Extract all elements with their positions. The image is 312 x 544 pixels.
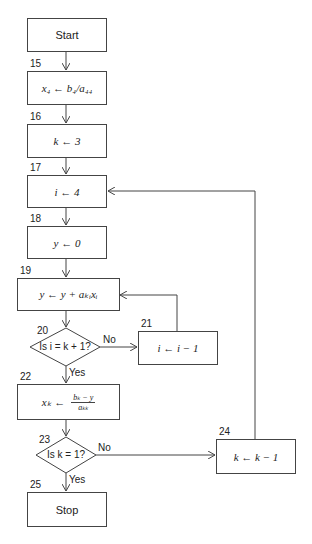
step-15-number: 15 <box>30 58 41 69</box>
step-15-text: x₄ ← b₄/a₄₄ <box>42 82 93 94</box>
step-18-number: 18 <box>30 213 41 224</box>
step-17-number: 17 <box>30 162 41 173</box>
step-24-number: 24 <box>219 426 230 437</box>
step-16-box: k ← 3 <box>27 124 107 158</box>
step-15-box: x₄ ← b₄/a₄₄ <box>27 71 107 105</box>
decision-23-no-label: No <box>98 442 111 453</box>
step-17-text: i ← 4 <box>54 186 79 198</box>
step-24-text: k ← k − 1 <box>234 451 279 463</box>
decision-20-text: Is i = k + 1? <box>30 341 100 352</box>
decision-23-text: Is k = 1? <box>36 449 96 460</box>
decision-23-yes-label: Yes <box>69 474 85 485</box>
step-23-number: 23 <box>39 434 50 445</box>
step-22-fraction: bₖ − y aₖₖ <box>71 393 95 412</box>
step-19-box: y ← y + aₖᵢxᵢ <box>17 278 120 311</box>
step-16-text: k ← 3 <box>54 135 81 147</box>
step-20-number: 20 <box>37 325 48 336</box>
step-19-number: 19 <box>20 265 31 276</box>
step-21-text: i ← i − 1 <box>157 342 198 354</box>
step-16-number: 16 <box>30 111 41 122</box>
decision-20-no-label: No <box>103 334 116 345</box>
step-21-box: i ← i − 1 <box>138 331 218 365</box>
step-25-number: 25 <box>30 479 41 490</box>
stop-label: Stop <box>56 504 79 516</box>
stop-node: Stop <box>27 492 107 527</box>
decision-20-yes-label: Yes <box>69 367 85 378</box>
step-22-box: xₖ ← bₖ − y aₖₖ <box>17 384 120 420</box>
start-node: Start <box>27 18 107 52</box>
step-22-lhs: xₖ ← <box>42 396 66 409</box>
step-18-box: y ← 0 <box>27 226 107 259</box>
step-18-text: y ← 0 <box>54 237 81 249</box>
step-22-numerator: bₖ − y <box>71 393 95 403</box>
step-17-box: i ← 4 <box>27 175 107 208</box>
start-label: Start <box>55 29 78 41</box>
step-22-number: 22 <box>20 371 31 382</box>
step-19-text: y ← y + aₖᵢxᵢ <box>39 288 97 301</box>
step-22-denominator: aₖₖ <box>78 403 88 412</box>
step-24-box: k ← k − 1 <box>216 439 296 474</box>
step-21-number: 21 <box>141 318 152 329</box>
